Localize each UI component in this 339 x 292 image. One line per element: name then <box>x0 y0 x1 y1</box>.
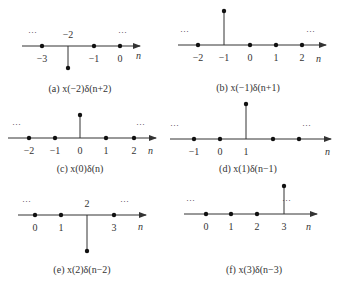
sample-dot <box>255 212 259 216</box>
sample-dot <box>132 136 136 140</box>
ellipsis: ··· <box>136 119 145 129</box>
tick-label: 2 <box>300 52 305 63</box>
tick-label: 3 <box>112 222 117 233</box>
panel-d: n······−101(d) x(1)δ(n−1) <box>170 102 331 175</box>
sample-n-2: 2 <box>85 198 90 253</box>
tick-label: 1 <box>59 222 64 233</box>
ellipsis: ··· <box>170 120 179 130</box>
tick-label: 0 <box>248 52 253 63</box>
tick-label: 1 <box>274 52 279 63</box>
sample-dot <box>222 9 226 13</box>
panel-caption: (e) x(2)δ(n−2) <box>53 264 110 276</box>
sample-dot <box>300 43 304 47</box>
ellipsis: ··· <box>118 27 127 37</box>
stem-plot-figure: n······−3−2−10(a) x(−2)δ(n+2)n······−2−1… <box>0 0 339 292</box>
tick-label: 0 <box>78 145 83 156</box>
sample-n-1: 1 <box>59 213 64 233</box>
panel-caption: (a) x(−2)δ(n+2) <box>49 83 112 95</box>
panel-e: n······0123(e) x(2)δ(n−2) <box>18 196 146 276</box>
panel-caption: (d) x(1)δ(n−1) <box>219 163 277 175</box>
sample-n-3 <box>297 137 301 141</box>
sample-dot <box>218 137 222 141</box>
sample-dot <box>40 44 44 48</box>
ellipsis: ··· <box>120 196 129 206</box>
sample-dot <box>271 137 275 141</box>
sample-dot <box>66 66 70 70</box>
tick-label: 2 <box>132 145 137 156</box>
tick-label: 3 <box>282 221 287 232</box>
sample-n--2: −2 <box>193 43 204 63</box>
sample-dot <box>59 213 63 217</box>
sample-dot <box>204 212 208 216</box>
sample-n-2: 2 <box>132 136 137 156</box>
sample-n-0: 0 <box>78 113 83 156</box>
sample-n-0: 0 <box>218 137 223 157</box>
sample-n-2: 2 <box>255 212 260 232</box>
sample-n-1: 1 <box>244 102 249 157</box>
sample-dot <box>92 44 96 48</box>
panel-c: n······−2−1012(c) x(0)δ(n) <box>8 113 156 175</box>
ellipsis: ··· <box>22 196 31 206</box>
sample-dot <box>27 136 31 140</box>
sample-dot <box>112 213 116 217</box>
tick-label: 0 <box>118 53 123 64</box>
sample-dot <box>229 212 233 216</box>
tick-label: 2 <box>85 198 90 209</box>
tick-label: −3 <box>37 53 48 64</box>
sample-dot <box>196 43 200 47</box>
panel-b: n······−2−1012(b) x(−1)δ(n+1) <box>178 9 326 94</box>
panel-caption: (c) x(0)δ(n) <box>57 163 104 175</box>
sample-dot <box>282 184 286 188</box>
sample-dot <box>118 44 122 48</box>
sample-dot <box>274 43 278 47</box>
sample-n--1: −1 <box>50 136 61 156</box>
ellipsis: ··· <box>12 119 21 129</box>
sample-dot <box>192 137 196 141</box>
tick-label: 1 <box>244 146 249 157</box>
sample-n-2: 2 <box>300 43 305 63</box>
ellipsis: ··· <box>282 195 291 205</box>
tick-label: 0 <box>33 222 38 233</box>
sample-n-3: 3 <box>112 213 117 233</box>
sample-n--1: −1 <box>89 44 100 64</box>
tick-label: −1 <box>89 53 100 64</box>
sample-n-1: 1 <box>104 136 109 156</box>
sample-dot <box>297 137 301 141</box>
sample-n-0: 0 <box>118 44 123 64</box>
axis-label-n: n <box>138 221 143 232</box>
sample-dot <box>53 136 57 140</box>
tick-label: −2 <box>24 145 35 156</box>
panel-caption: (b) x(−1)δ(n+1) <box>216 82 279 94</box>
axis-label-n: n <box>148 145 153 156</box>
sample-dot <box>244 102 248 106</box>
tick-label: −2 <box>193 52 204 63</box>
sample-n--1: −1 <box>189 137 200 157</box>
axis-label-n: n <box>306 221 311 232</box>
sample-n-1: 1 <box>274 43 279 63</box>
tick-label: 1 <box>104 145 109 156</box>
sample-n-3: 3 <box>282 184 287 232</box>
panel-a: n······−3−2−10(a) x(−2)δ(n+2) <box>22 27 141 95</box>
tick-label: 1 <box>229 221 234 232</box>
panel-f: n······0123(f) x(3)δ(n−3) <box>184 184 317 276</box>
sample-n-0: 0 <box>248 43 253 63</box>
sample-n-2 <box>271 137 275 141</box>
tick-label: 0 <box>218 146 223 157</box>
sample-dot <box>33 213 37 217</box>
sample-dot <box>78 113 82 117</box>
sample-n-1: 1 <box>229 212 234 232</box>
panel-caption: (f) x(3)δ(n−3) <box>226 264 282 276</box>
ellipsis: ··· <box>186 195 195 205</box>
axis-label-n: n <box>316 53 321 64</box>
sample-n--2: −2 <box>63 29 74 70</box>
tick-label: 2 <box>255 221 260 232</box>
ellipsis: ··· <box>302 120 311 130</box>
sample-n--1: −1 <box>219 9 230 63</box>
tick-label: −1 <box>50 145 61 156</box>
sample-n-0: 0 <box>204 212 209 232</box>
axis-label-n: n <box>136 50 141 61</box>
sample-n--3: −3 <box>37 44 48 64</box>
tick-label: 0 <box>204 221 209 232</box>
sample-n--2: −2 <box>24 136 35 156</box>
tick-label: −1 <box>219 52 230 63</box>
